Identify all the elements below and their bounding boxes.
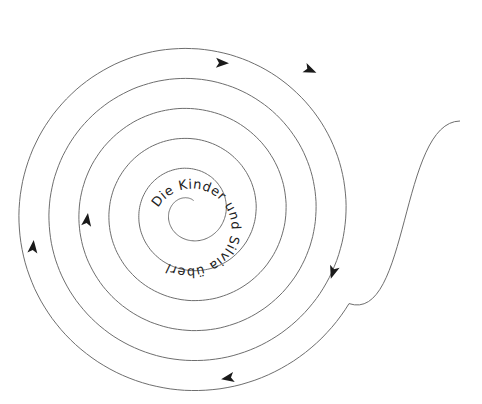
arrow-right-icon xyxy=(302,63,318,77)
spiral-diagram: Die Kinder und Silvia überlegen. Sie xyxy=(0,0,482,404)
arrow-left-icon xyxy=(220,372,235,384)
arrow-up-icon xyxy=(27,240,38,254)
arrow-down-icon xyxy=(326,265,340,280)
arrow-up-icon xyxy=(81,212,93,226)
arrows-group xyxy=(27,58,339,384)
arrow-right-icon xyxy=(216,58,229,68)
